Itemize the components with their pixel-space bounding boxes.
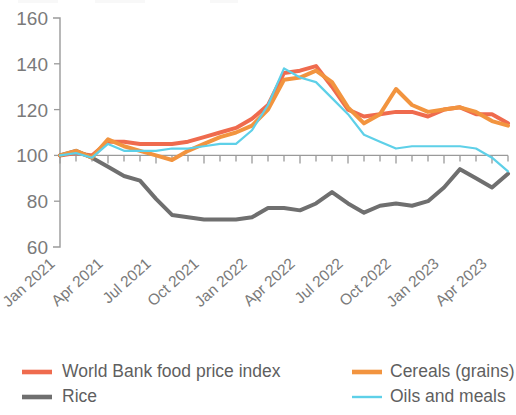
x-tick-label-jan-2021: Jan 2021 — [0, 255, 58, 310]
chart-canvas: 1601401201008060 Jan 2021Apr 2021Jul 202… — [0, 0, 516, 415]
y-tick-label-160: 160 — [16, 8, 48, 29]
legend-item-world-bank-food-price-index[interactable]: World Bank food price index — [22, 361, 281, 381]
x-tick-label-text: Apr 2023 — [432, 255, 490, 310]
x-tick-label-text: Jan 2021 — [0, 255, 58, 310]
y-tick-label-60: 60 — [27, 237, 48, 258]
legend-item-oils-and-meals[interactable]: Oils and meals — [352, 386, 506, 406]
legend-item-rice[interactable]: Rice — [22, 386, 97, 406]
legend-label: Cereals (grains) — [390, 361, 514, 381]
x-tick-label-text: Oct 2022 — [336, 255, 394, 310]
legend-label: Rice — [62, 386, 97, 406]
x-tick-label-oct-2022: Oct 2022 — [336, 255, 394, 310]
x-tick-label-jan-2023: Jan 2023 — [383, 255, 442, 310]
legend-label: Oils and meals — [390, 386, 506, 406]
x-axis-ticks — [60, 155, 508, 163]
y-tick-label-140: 140 — [16, 54, 48, 75]
food-price-index-chart: 1601401201008060 Jan 2021Apr 2021Jul 202… — [0, 0, 516, 415]
x-tick-label-oct-2021: Oct 2021 — [144, 255, 202, 310]
y-tick-label-100: 100 — [16, 145, 48, 166]
cropped-title-fragment — [18, 0, 238, 3]
legend-item-cereals-grains[interactable]: Cereals (grains) — [352, 361, 514, 381]
x-tick-label-apr-2022: Apr 2022 — [240, 255, 298, 310]
legend-label: World Bank food price index — [62, 361, 281, 381]
x-tick-label-text: Apr 2021 — [48, 255, 106, 310]
x-tick-label-apr-2021: Apr 2021 — [48, 255, 106, 310]
y-tick-label-120: 120 — [16, 100, 48, 121]
x-tick-label-text: Jan 2022 — [191, 255, 250, 310]
x-tick-label-text: Apr 2022 — [240, 255, 298, 310]
chart-legend: World Bank food price indexRiceCereals (… — [22, 361, 514, 406]
x-axis-labels: Jan 2021Apr 2021Jul 2021Oct 2021Jan 2022… — [0, 255, 490, 310]
y-tick-label-80: 80 — [27, 191, 48, 212]
series-lines — [60, 66, 508, 219]
x-tick-label-jan-2022: Jan 2022 — [191, 255, 250, 310]
x-tick-label-text: Jan 2023 — [383, 255, 442, 310]
y-axis: 1601401201008060 — [16, 8, 60, 258]
x-tick-label-apr-2023: Apr 2023 — [432, 255, 490, 310]
x-tick-label-text: Oct 2021 — [144, 255, 202, 310]
